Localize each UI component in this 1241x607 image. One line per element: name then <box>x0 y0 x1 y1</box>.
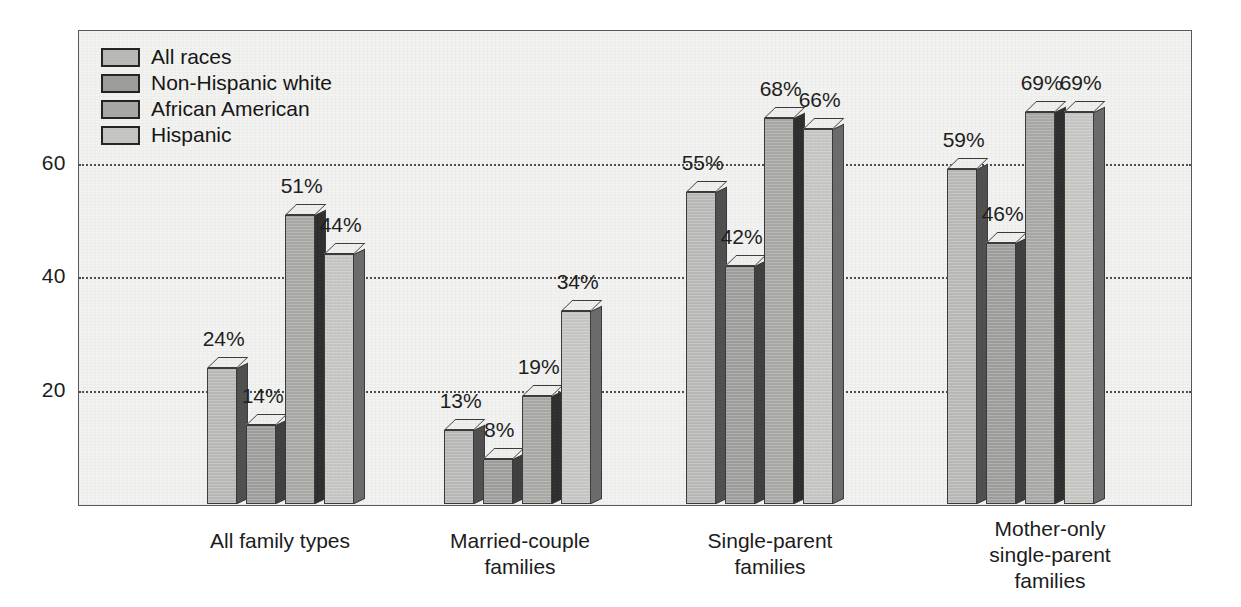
category-label-3: Mother-only single-parent families <box>930 516 1170 594</box>
bar-front-face <box>483 459 513 504</box>
y-tick-label-60: 60 <box>14 151 66 175</box>
bar-side-face <box>1094 107 1105 504</box>
bar-2-1: 42% <box>725 266 755 504</box>
bar-3-1: 46% <box>986 243 1016 504</box>
bar-2-2: 68% <box>764 118 794 504</box>
category-label-1: Married-couple families <box>400 528 640 580</box>
bar-value-label: 68% <box>760 77 802 101</box>
bar-value-label: 24% <box>203 327 245 351</box>
bar-texture <box>1026 113 1054 503</box>
bar-value-label: 46% <box>982 202 1024 226</box>
bar-value-label: 13% <box>440 389 482 413</box>
bar-texture <box>687 193 715 503</box>
bar-0-0: 24% <box>207 368 237 504</box>
bar-1-1: 8% <box>483 459 513 504</box>
bar-value-label: 69% <box>1021 71 1063 95</box>
bar-value-label: 19% <box>518 355 560 379</box>
bar-2-3: 66% <box>803 129 833 504</box>
bar-front-face <box>725 266 755 504</box>
bar-front-face <box>947 169 977 504</box>
bar-texture <box>726 267 754 503</box>
bar-front-face <box>1064 112 1094 504</box>
bar-texture <box>445 431 473 503</box>
bar-value-label: 14% <box>242 384 284 408</box>
bar-front-face <box>764 118 794 504</box>
bar-front-face <box>686 192 716 504</box>
bar-texture <box>484 460 512 503</box>
bar-front-face <box>1025 112 1055 504</box>
bar-0-3: 44% <box>324 254 354 504</box>
bar-value-label: 59% <box>943 128 985 152</box>
bar-texture <box>325 255 353 503</box>
bar-1-0: 13% <box>444 430 474 504</box>
category-label-0: All family types <box>160 528 400 554</box>
bar-value-label: 55% <box>682 151 724 175</box>
bar-2-0: 55% <box>686 192 716 504</box>
bar-0-2: 51% <box>285 215 315 504</box>
bar-texture <box>804 130 832 503</box>
bar-side-face <box>591 306 602 504</box>
bar-front-face <box>324 254 354 504</box>
bar-side-face <box>354 249 365 504</box>
y-tick-label-20: 20 <box>14 378 66 402</box>
bar-value-label: 8% <box>484 418 514 442</box>
bar-1-3: 34% <box>561 311 591 504</box>
bar-texture <box>523 397 551 503</box>
bar-3-2: 69% <box>1025 112 1055 504</box>
bar-front-face <box>246 425 276 504</box>
bar-texture <box>247 426 275 503</box>
bar-value-label: 69% <box>1060 71 1102 95</box>
bar-value-label: 44% <box>320 213 362 237</box>
bar-front-face <box>444 430 474 504</box>
bar-value-label: 34% <box>557 270 599 294</box>
bar-texture <box>948 170 976 503</box>
bar-side-face <box>833 124 844 504</box>
bar-value-label: 42% <box>721 225 763 249</box>
bar-texture <box>1065 113 1093 503</box>
bar-texture <box>286 216 314 503</box>
bar-texture <box>987 244 1015 503</box>
bar-value-label: 51% <box>281 174 323 198</box>
bar-front-face <box>803 129 833 504</box>
bar-front-face <box>522 396 552 504</box>
y-tick-label-40: 40 <box>14 264 66 288</box>
bar-0-1: 14% <box>246 425 276 504</box>
bars-layer: 24%14%51%44%13%8%19%34%55%42%68%66%59%46… <box>79 31 1191 505</box>
bar-3-3: 69% <box>1064 112 1094 504</box>
bar-front-face <box>561 311 591 504</box>
bar-front-face <box>986 243 1016 504</box>
bar-texture <box>208 369 236 503</box>
bar-chart: 60 40 20 All races Non-Hispanic white Af… <box>0 0 1241 607</box>
bar-texture <box>765 119 793 503</box>
bar-front-face <box>285 215 315 504</box>
category-label-2: Single-parent families <box>650 528 890 580</box>
bar-texture <box>562 312 590 503</box>
bar-value-label: 66% <box>799 88 841 112</box>
bar-1-2: 19% <box>522 396 552 504</box>
plot-area: All races Non-Hispanic white African Ame… <box>78 30 1192 506</box>
bar-3-0: 59% <box>947 169 977 504</box>
bar-front-face <box>207 368 237 504</box>
